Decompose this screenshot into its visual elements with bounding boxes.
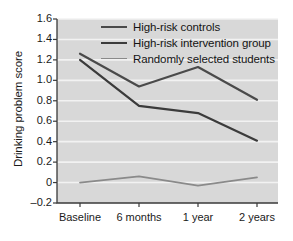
y-tick-label: –0.2 <box>18 197 52 208</box>
legend-swatch-icon <box>101 42 127 44</box>
legend-label: High-risk controls <box>133 21 220 33</box>
y-tick-label: 0.2 <box>18 156 52 167</box>
y-tick-label: 1.4 <box>18 33 52 44</box>
x-tick-label-0: Baseline <box>59 211 101 223</box>
x-tick-label-2: 1 year <box>183 211 214 223</box>
legend-item-1: High-risk intervention group <box>101 35 275 50</box>
y-tick-label: 1.6 <box>18 13 52 24</box>
y-axis-tick-labels: 1.61.41.21.00.80.60.40.20–0.2 <box>14 0 52 241</box>
y-tick-label: 1.2 <box>18 54 52 65</box>
x-tick-label-1: 6 months <box>116 211 161 223</box>
legend-label: Randomly selected students <box>133 53 275 65</box>
legend-label: High-risk intervention group <box>133 37 271 49</box>
x-tick-label-3: 2 years <box>239 211 275 223</box>
y-tick-label: 0.4 <box>18 136 52 147</box>
legend-swatch-icon <box>101 58 127 59</box>
y-tick-label: 0 <box>18 177 52 188</box>
legend-swatch-icon <box>101 26 127 28</box>
y-tick-label: 0.6 <box>18 115 52 126</box>
chart-legend: High-risk controlsHigh-risk intervention… <box>101 19 275 66</box>
legend-item-0: High-risk controls <box>101 19 275 34</box>
y-tick-label: 0.8 <box>18 95 52 106</box>
legend-item-2: Randomly selected students <box>101 51 275 66</box>
drinking-problem-score-chart: Drinking problem score 1.61.41.21.00.80.… <box>0 0 293 241</box>
y-tick-label: 1.0 <box>18 74 52 85</box>
